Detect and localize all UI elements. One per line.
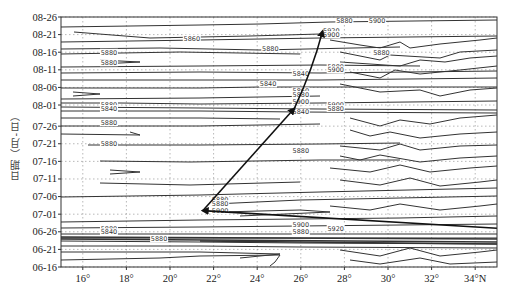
contour-label: 5880 (101, 59, 118, 67)
contour-line (330, 165, 497, 172)
contour-label: 5900 (323, 31, 340, 39)
contour-label: 5880 (101, 119, 118, 127)
contour-label: 5880 (293, 147, 310, 155)
contour-line (340, 144, 497, 150)
y-tick-label: 08-06 (33, 82, 58, 93)
y-tick-label: 07-11 (33, 173, 57, 184)
y-tick-label: 07-06 (33, 191, 58, 202)
contour-label: 5880 (101, 140, 118, 148)
x-tick-label: 28° (337, 273, 352, 284)
contour-label: 5920 (327, 225, 344, 233)
y-tick-label: 08-21 (33, 29, 58, 40)
y-axis-ticks: 06-1606-2106-2607-0107-0607-1107-1607-21… (33, 12, 62, 273)
contour-label: 5880 (101, 49, 118, 57)
contour-label: 5900 (293, 98, 310, 106)
contour-line (340, 56, 497, 66)
contour-line (340, 155, 497, 162)
contour-line (214, 196, 497, 204)
contour-line (100, 160, 400, 162)
contour-line (340, 84, 497, 96)
contour-line (88, 143, 400, 145)
contour-line (100, 182, 300, 185)
y-tick-label: 06-16 (33, 262, 58, 273)
y-tick-label: 08-16 (33, 47, 58, 58)
contour-line (340, 50, 497, 60)
x-axis-ticks: 16°18°20°22°24°26°28°30°32°34°N (75, 267, 486, 284)
contour-label: 5880 (373, 49, 390, 57)
contour-line (270, 255, 280, 266)
contour-label: 5900 (369, 17, 386, 25)
contour-label: 5840 (101, 105, 118, 113)
x-tick-label: 18° (119, 273, 134, 284)
y-tick-label: 06-26 (33, 226, 58, 237)
contour-line (73, 92, 100, 96)
y-tick-label: 07-16 (33, 156, 58, 167)
contour-line (330, 204, 497, 210)
y-tick-label: 07-21 (33, 138, 58, 149)
contour-label: 5840 (101, 228, 118, 236)
contour-label: 5880 (293, 228, 310, 236)
contour-labels: 5880588058605880588058805900592059005840… (100, 17, 391, 243)
contour-label: 5880 (151, 235, 168, 243)
contour-label: 5860 (184, 35, 201, 43)
y-tick-label: 08-11 (33, 64, 57, 75)
x-tick-label: 30° (381, 273, 396, 284)
grid-lines (61, 17, 497, 267)
contour-label: 5840 (260, 80, 277, 88)
x-tick-label: 26° (293, 273, 308, 284)
x-tick-label: 24° (250, 273, 265, 284)
contour-label: 5880 (327, 105, 344, 113)
y-tick-label: 07-01 (33, 209, 58, 220)
ridge-arrow (203, 109, 295, 211)
contour-label: 5880 (262, 45, 279, 53)
y-tick-label: 08-26 (33, 12, 58, 23)
contour-line (350, 115, 497, 126)
contour-line (61, 118, 280, 119)
x-tick-label: 34°N (464, 273, 487, 284)
contour-label: 5880 (336, 17, 353, 25)
contour-chart: 5880588058605880588058805900592059005840… (0, 0, 510, 294)
contour-line (61, 132, 140, 135)
contour-label: 5840 (293, 70, 310, 78)
y-tick-label: 08-01 (33, 100, 58, 111)
contour-line (61, 111, 497, 113)
contour-line (61, 96, 320, 99)
contour-label: 5900 (327, 66, 344, 74)
contour-line (330, 38, 497, 48)
x-tick-label: 22° (206, 273, 221, 284)
y-tick-label: 06-21 (33, 244, 58, 255)
y-tick-label: 07-26 (33, 121, 58, 132)
x-tick-label: 16° (75, 273, 90, 284)
x-tick-label: 20° (163, 273, 178, 284)
contour-line (110, 170, 140, 174)
contour-label: 5840 (293, 108, 310, 116)
x-tick-label: 32° (424, 273, 439, 284)
